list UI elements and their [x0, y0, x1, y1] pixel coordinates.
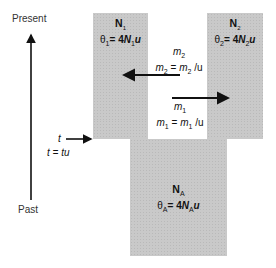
migration-m2-label: m2 m2 = m2 /u	[150, 46, 208, 78]
population-2-label: N2 θ2= 4N2u	[207, 17, 263, 50]
population-1-label: N1 θ1= 4N1u	[93, 17, 148, 50]
ancestral-population-label: NA θA= 4NAu	[130, 183, 227, 216]
split-time-label: t	[58, 133, 61, 144]
present-label: Present	[12, 13, 46, 24]
migration-m1-label: m1 m1 = m1 /u	[152, 101, 208, 133]
split-time-equation: t = tu	[47, 147, 70, 158]
past-label: Past	[18, 204, 38, 215]
